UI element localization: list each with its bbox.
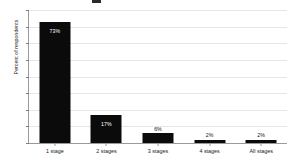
x-tick-mark — [54, 143, 55, 146]
x-tick-label: 3 stages — [148, 148, 168, 154]
bar[interactable]: 17% — [91, 115, 122, 143]
bar-slot: 73%1 stage — [29, 10, 81, 143]
bar-value-label: 73% — [49, 28, 60, 34]
bar-value-label: 2% — [206, 132, 214, 138]
bar-value-label: 6% — [154, 126, 162, 132]
bar[interactable]: 6% — [142, 133, 173, 143]
bar-slot: 2%4 stages — [184, 10, 236, 143]
bar[interactable]: 73% — [39, 22, 70, 143]
plot-area: 80%70%60%50%40%30%20%10%0% 73%1 stage17%… — [29, 10, 287, 143]
x-tick-label: 2 stages — [96, 148, 116, 154]
y-axis-title: Percent of respondents — [13, 0, 19, 101]
bar-value-label: 17% — [101, 121, 112, 127]
bar-slot: 6%3 stages — [132, 10, 184, 143]
bar-slot: 2%All stages — [235, 10, 287, 143]
bar-value-label: 2% — [257, 132, 265, 138]
x-tick-label: All stages — [250, 148, 273, 154]
cropped-title-remnant — [92, 0, 101, 3]
x-tick-label: 4 stages — [199, 148, 219, 154]
bar-slot: 17%2 stages — [81, 10, 133, 143]
y-tick-mark — [26, 143, 29, 144]
x-tick-mark — [157, 143, 158, 146]
x-tick-mark — [209, 143, 210, 146]
x-tick-mark — [106, 143, 107, 146]
x-tick-label: 1 stage — [46, 148, 64, 154]
bar-chart: Percent of respondents 80%70%60%50%40%30… — [0, 0, 294, 159]
x-tick-mark — [261, 143, 262, 146]
